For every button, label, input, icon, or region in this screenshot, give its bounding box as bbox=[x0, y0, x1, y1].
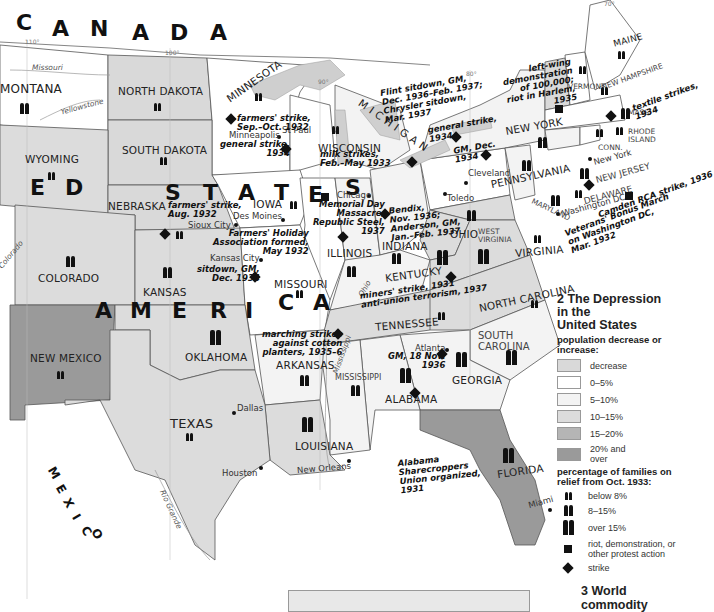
label-new-mexico: NEW MEXICO bbox=[30, 352, 102, 364]
canada-letter: N bbox=[90, 16, 108, 41]
label-iowa: IOWA bbox=[253, 198, 282, 210]
medium-figures-icon bbox=[564, 505, 573, 516]
relief-icon-indiana bbox=[392, 253, 401, 264]
city-dot-cleveland bbox=[464, 181, 468, 185]
legend-item-decrease: decrease bbox=[557, 359, 686, 372]
relief-icon-georgia bbox=[456, 352, 467, 367]
legend-item-below-8: below 8% bbox=[557, 491, 686, 501]
relief-icon-alabama bbox=[400, 368, 411, 383]
legend-item-15-20: 15–20% bbox=[557, 427, 686, 440]
label-west-virginia: WEST VIRGINIA bbox=[478, 228, 518, 244]
city-dallas: Dallas bbox=[237, 403, 263, 413]
relief-icon-colorado bbox=[66, 256, 75, 267]
relief-icon-mass bbox=[621, 108, 630, 119]
canada-letter: A bbox=[210, 20, 227, 45]
relief-icon-maine bbox=[618, 51, 625, 59]
relief-icon-delaware bbox=[575, 190, 582, 198]
city-cleveland: Cleveland bbox=[468, 168, 510, 178]
relief-icon-south-dakota bbox=[160, 157, 167, 165]
canada-letter: D bbox=[170, 20, 188, 45]
label-north-dakota: NORTH DAKOTA bbox=[118, 85, 203, 97]
label-arkansas: ARKANSAS bbox=[276, 359, 335, 371]
relief-icon-wisconsin bbox=[332, 126, 339, 134]
relief-icon-conn bbox=[596, 129, 603, 137]
label-indiana: INDIANA bbox=[382, 240, 428, 252]
relief-icon-rhode-island bbox=[616, 127, 623, 135]
legend-item-5-10: 5–10% bbox=[557, 393, 686, 406]
city-dot-miami bbox=[548, 508, 552, 512]
label-montana: MONTANA bbox=[0, 82, 62, 96]
us-letter: C bbox=[278, 290, 294, 315]
label-colorado: COLORADO bbox=[38, 272, 99, 284]
relief-icon-virginia bbox=[534, 235, 541, 243]
event-memorial-day-massacre: Memorial Day Massacre, Republic Steel, 1… bbox=[313, 200, 385, 236]
us-letter: A bbox=[313, 290, 330, 315]
legend-label: 20% and over bbox=[590, 444, 630, 464]
event-nebraska-farmers-strike: farmers' strike, Aug. 1932 bbox=[168, 201, 242, 219]
legend-item-8-15: 8–15% bbox=[557, 505, 686, 516]
label-texas: TEXAS bbox=[170, 416, 213, 431]
legend-item-20-over: 20% and over bbox=[557, 444, 686, 464]
label-mississippi: MISSISSIPPI bbox=[335, 373, 381, 382]
legend-population-heading: population decrease or increase: bbox=[557, 335, 686, 355]
legend-item-strike: strike bbox=[557, 563, 686, 573]
relief-icon-west-virginia bbox=[478, 249, 489, 264]
canada-letter: A bbox=[132, 20, 149, 45]
label-south-dakota: SOUTH DAKOTA bbox=[122, 144, 207, 156]
label-wyoming: WYOMING bbox=[25, 153, 79, 165]
us-letter: R bbox=[210, 298, 227, 323]
relief-icon-pennsylvania bbox=[522, 160, 531, 171]
city-dot-dallas bbox=[232, 411, 236, 415]
event-bendix-anderson: Bendix, Nov. 1936; Anderson, GM, Jan.–Fe… bbox=[388, 199, 462, 242]
label-south-carolina: SOUTH CAROLINA bbox=[478, 330, 533, 352]
us-letter: M bbox=[130, 298, 152, 323]
relief-icon-wyoming bbox=[48, 172, 55, 180]
city-dot-new-york bbox=[588, 157, 592, 161]
legend-label: riot, demonstration, or other protest ac… bbox=[588, 539, 678, 559]
event-atlanta-gm: GM, 18 Nov. 1936 bbox=[388, 352, 445, 370]
legend-label: strike bbox=[588, 563, 610, 573]
legend-item-10-15: 10–15% bbox=[557, 410, 686, 423]
label-georgia: GEORGIA bbox=[452, 374, 502, 386]
next-section-title: 3 World commodity bbox=[581, 584, 686, 612]
small-figures-icon bbox=[565, 492, 572, 500]
relief-icon-florida bbox=[503, 448, 514, 463]
longitude-70: 70° bbox=[604, 0, 615, 7]
relief-icon-new-york bbox=[538, 137, 547, 148]
relief-icon-iowa bbox=[290, 201, 297, 209]
longitude-90: 90° bbox=[318, 78, 329, 85]
swatch-10-15 bbox=[557, 410, 581, 423]
legend-item-protest: riot, demonstration, or other protest ac… bbox=[557, 539, 686, 559]
state-conn bbox=[545, 127, 580, 150]
label-rhode-island: RHODE ISLAND bbox=[628, 128, 658, 144]
river-missouri: Missouri bbox=[32, 63, 63, 72]
relief-icon-maryland bbox=[551, 195, 560, 206]
relief-icon-ohio bbox=[467, 210, 476, 221]
swatch-decrease bbox=[557, 359, 581, 372]
city-houston: Houston bbox=[222, 468, 257, 478]
longitude-110: 110° bbox=[25, 38, 39, 45]
canada-letter: A bbox=[52, 16, 69, 41]
relief-icon-kansas bbox=[163, 267, 172, 278]
city-dot-kansas-city bbox=[259, 258, 263, 262]
event-minnesota-farmers-strike: farmers' strike, Sep.–Oct. 1932 bbox=[237, 114, 311, 132]
legend-relief-heading: percentage of families on relief from Oc… bbox=[557, 467, 686, 487]
protest-icon bbox=[555, 105, 563, 113]
longitude-100: 100° bbox=[165, 49, 179, 56]
city-dot-houston bbox=[259, 466, 263, 470]
relief-icon-arkansas bbox=[300, 375, 309, 386]
canada-letter: C bbox=[16, 10, 32, 35]
legend-item-over-15: over 15% bbox=[557, 520, 686, 535]
legend-label: over 15% bbox=[588, 523, 626, 533]
relief-icon-new-jersey bbox=[580, 168, 589, 179]
legend-label: 10–15% bbox=[590, 412, 623, 422]
legend-label: 5–10% bbox=[590, 395, 618, 405]
swatch-20-over bbox=[557, 448, 581, 461]
protest-square-icon bbox=[564, 545, 572, 553]
label-missouri: MISSOURI bbox=[274, 278, 327, 290]
state-wyoming bbox=[0, 125, 108, 215]
event-minneapolis-general-strike: general strike, 1934 bbox=[220, 140, 290, 158]
large-figures-icon bbox=[563, 520, 574, 535]
event-marching-strikes: marching strikes against cotton planters… bbox=[262, 330, 342, 357]
label-kansas: KANSAS bbox=[143, 286, 187, 298]
